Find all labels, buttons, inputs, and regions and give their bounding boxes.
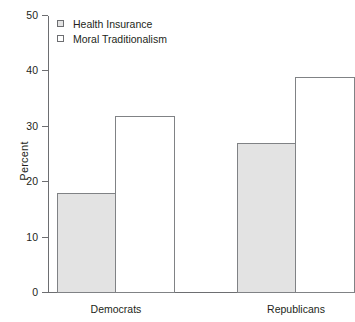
- y-tick-10: 10: [42, 237, 48, 238]
- bar-moral-traditionalism-republicans[interactable]: [295, 77, 355, 293]
- y-tick-label-10: 10: [26, 229, 38, 245]
- bar-health-insurance-democrats[interactable]: [57, 193, 116, 293]
- x-tick-label-democrats: Democrats: [57, 303, 175, 315]
- y-axis-line: [48, 16, 49, 293]
- y-tick-label-30: 30: [26, 118, 38, 134]
- legend-item-health-insurance[interactable]: Health Insurance: [57, 17, 167, 30]
- x-tick-label-republicans: Republicans: [237, 303, 355, 315]
- bar-group-republicans: Republicans: [237, 16, 355, 293]
- legend: Health Insurance Moral Traditionalism: [57, 17, 167, 47]
- y-axis-title: Percent: [16, 0, 32, 322]
- y-tick-40: 40: [42, 70, 48, 71]
- y-tick-label-40: 40: [26, 62, 38, 78]
- y-tick-label-50: 50: [26, 7, 38, 23]
- plot-area: 0 10 20 30 40 50 Democrats Republicans: [48, 16, 354, 293]
- bar-group-democrats: Democrats: [57, 16, 175, 293]
- y-tick-0: 0: [42, 292, 48, 293]
- y-tick-20: 20: [42, 181, 48, 182]
- y-tick-50: 50: [42, 15, 48, 16]
- legend-label-moral-traditionalism: Moral Traditionalism: [73, 33, 167, 45]
- bar-health-insurance-republicans[interactable]: [237, 143, 296, 293]
- y-tick-label-20: 20: [26, 173, 38, 189]
- legend-item-moral-traditionalism[interactable]: Moral Traditionalism: [57, 32, 167, 45]
- y-tick-label-0: 0: [32, 284, 38, 300]
- legend-swatch-icon: [57, 20, 64, 27]
- legend-label-health-insurance: Health Insurance: [73, 18, 152, 30]
- y-tick-30: 30: [42, 126, 48, 127]
- legend-swatch-icon: [57, 35, 64, 42]
- bar-moral-traditionalism-democrats[interactable]: [115, 116, 175, 293]
